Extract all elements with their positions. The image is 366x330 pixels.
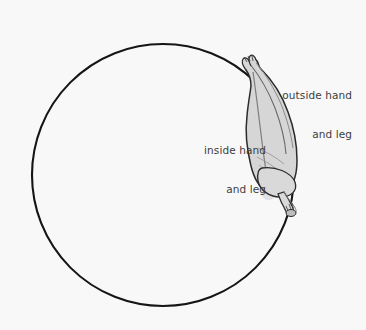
annotation-outside-line2: and leg xyxy=(258,128,352,141)
annotation-inside-hand-and-leg: inside hand and leg xyxy=(172,118,266,222)
annotation-outside-line1: outside hand xyxy=(258,89,352,102)
annotation-inside-line2: and leg xyxy=(172,183,266,196)
figure-container: outside hand and leg inside hand and leg xyxy=(0,0,366,330)
annotation-outside-hand-and-leg: outside hand and leg xyxy=(258,63,352,167)
annotation-inside-line1: inside hand xyxy=(172,144,266,157)
feet xyxy=(286,210,296,217)
